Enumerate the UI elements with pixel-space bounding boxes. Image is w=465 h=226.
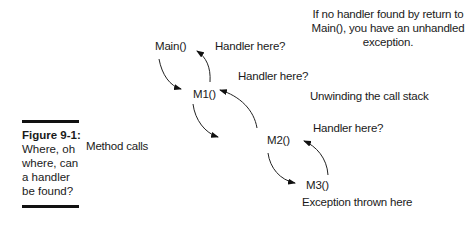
unwind-arrow-m3-m2: [304, 141, 328, 175]
call-arrow-main-m1: [159, 59, 181, 89]
call-arrow-m1-m2: [193, 104, 218, 137]
unwind-arrow-m2-m1: [220, 90, 257, 128]
call-stack-arrows: [0, 0, 465, 226]
call-arrow-m2-m3: [268, 153, 295, 183]
unwind-arrow-m1-main: [197, 51, 210, 82]
